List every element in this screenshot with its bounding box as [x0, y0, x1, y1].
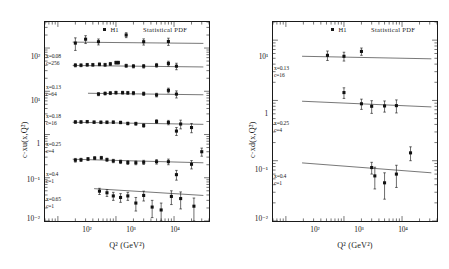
ytick-label: 10⁻² [232, 215, 268, 222]
xtick-label: 10⁴ [170, 226, 180, 233]
bin-x-label: x=0.13 [274, 65, 289, 72]
bin-x-label: x=0.13 [46, 84, 61, 91]
bin-x-label: x=0.4 [274, 173, 286, 180]
bin-c-label: c=1 [46, 203, 61, 210]
bin-c-label: c=1 [46, 178, 58, 185]
bin-annotation: x=0.65 c=1 [46, 196, 61, 210]
plot-canvas-xd [273, 22, 437, 221]
bin-annotation: x=0.08 c=256 [46, 53, 61, 67]
ytick-label: 10² [6, 53, 40, 60]
bin-annotation: x=0.18 c=16 [46, 113, 61, 127]
bin-x-label: x=0.25 [46, 141, 61, 148]
xtick-label: 10³ [126, 226, 135, 233]
plot-area-xu [44, 21, 210, 222]
bin-c-label: c=4 [46, 148, 61, 155]
ytick-label: 10⁻¹ [232, 166, 268, 173]
xtick-label: 10² [310, 226, 319, 233]
bin-c-label: c=16 [274, 72, 289, 79]
bin-annotation: x=0.4 c=1 [274, 173, 286, 187]
legend-marker-icon [331, 28, 334, 31]
xtick-label: 10² [82, 226, 91, 233]
legend-statistical-pdf-label: Statistical PDF [371, 26, 415, 33]
bin-c-label: c=16 [46, 120, 61, 127]
legend-h1: H1 [331, 26, 347, 33]
ytick-label: 1 [232, 110, 268, 117]
bin-x-label: x=0.08 [46, 53, 61, 60]
y-axis-title: c·xd(x,Q²) [248, 121, 257, 158]
plot-canvas-xu [45, 22, 209, 221]
legend-h1: H1 [103, 26, 119, 33]
bin-c-label: c=4 [274, 127, 289, 134]
ytick-label: 10¹ [6, 97, 40, 104]
parton-distribution-figure: 10² 10¹ 1 10⁻¹ 10⁻² 10² 10³ 10⁴ Q² (GeV²… [0, 0, 449, 269]
bin-annotation: x=0.25 c=4 [274, 120, 289, 134]
ytick-label: 10⁻¹ [6, 176, 40, 183]
bin-x-label: x=0.4 [46, 171, 58, 178]
bin-c-label: c=1 [274, 180, 286, 187]
bin-x-label: x=0.25 [274, 120, 289, 127]
ytick-label: 10¹ [232, 53, 268, 60]
legend-h1-label: H1 [110, 26, 118, 33]
legend-statistical-pdf-label: Statistical PDF [143, 26, 187, 33]
x-axis-title: Q² (GeV²) [337, 241, 373, 250]
bin-annotation: x=0.13 c=64 [46, 84, 61, 98]
y-axis-title: c·xu(x,Q²) [20, 121, 29, 158]
bin-x-label: x=0.65 [46, 196, 61, 203]
legend-marker-icon [103, 28, 106, 31]
legend-h1-label: H1 [338, 26, 346, 33]
bin-annotation: x=0.13 c=16 [274, 65, 289, 79]
panel-xu: 10² 10¹ 1 10⁻¹ 10⁻² 10² 10³ 10⁴ Q² (GeV²… [0, 0, 224, 269]
bin-c-label: c=64 [46, 91, 61, 98]
x-axis-title: Q² (GeV²) [109, 241, 145, 250]
plot-area-xd [272, 21, 438, 222]
bin-annotation: x=0.25 c=4 [46, 141, 61, 155]
xtick-label: 10⁴ [398, 226, 408, 233]
bin-annotation: x=0.4 c=1 [46, 171, 58, 185]
bin-c-label: c=256 [46, 60, 61, 67]
ytick-label: 10⁻² [6, 215, 40, 222]
xtick-label: 10³ [354, 226, 363, 233]
panel-xd: 10¹ 1 10⁻¹ 10⁻² 10² 10³ 10⁴ Q² (GeV²) c·… [224, 0, 449, 269]
bin-x-label: x=0.18 [46, 113, 61, 120]
